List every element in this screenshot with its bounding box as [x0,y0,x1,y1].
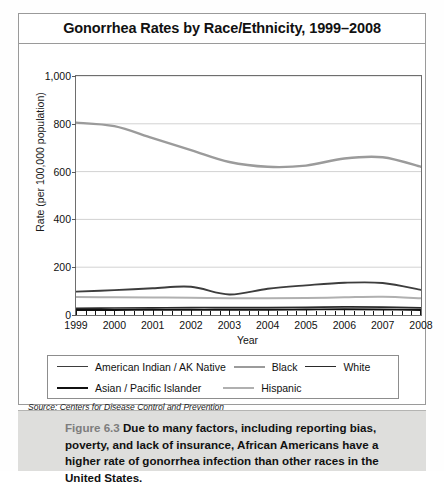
x-minor-tick [143,311,144,315]
x-tick-label: 2008 [409,319,432,331]
legend-item: Asian / Pacific Islander [57,382,201,394]
x-minor-tick [287,311,288,315]
y-tick-label: 800 [53,118,71,130]
x-minor-tick [316,311,317,315]
x-minor-tick [402,311,403,315]
legend-label: Asian / Pacific Islander [95,382,201,394]
figure-number: Figure 6.3 [65,421,120,434]
legend-swatch [223,387,254,389]
x-minor-tick [124,311,125,315]
x-minor-tick [239,311,240,315]
x-minor-tick [76,309,77,315]
x-tick-label: 2003 [218,319,241,331]
x-minor-tick [86,311,87,315]
x-tick-label: 2004 [256,319,279,331]
x-minor-tick [181,311,182,315]
legend-swatch [57,366,88,367]
x-tick-label: 1999 [64,319,87,331]
figure-caption: Figure 6.3 Due to many factors, includin… [65,420,410,486]
x-minor-tick [258,311,259,315]
x-minor-tick [114,309,115,315]
series-line [76,282,421,294]
plot-area: 02004006008001,000 199920002001200220032… [75,75,422,316]
x-tick-label: 2000 [103,319,126,331]
chart-legend: American Indian / AK NativeBlackWhite As… [47,355,399,399]
x-minor-tick [296,311,297,315]
chart-series-svg [76,76,421,315]
x-minor-tick [392,311,393,315]
y-tick-label: 1,000 [45,70,71,82]
x-tick-label: 2006 [333,319,356,331]
x-minor-tick [411,311,412,315]
caption-band: Figure 6.3 Due to many factors, includin… [18,410,426,471]
legend-label: Black [272,361,298,373]
x-minor-tick [172,311,173,315]
x-axis-label: Year [75,334,420,346]
legend-item: White [305,361,370,373]
legend-item: American Indian / AK Native [57,361,226,373]
legend-row: Asian / Pacific IslanderHispanic [48,377,398,398]
x-minor-tick [229,309,230,315]
x-minor-tick [383,309,384,315]
y-tick-label: 600 [53,166,71,178]
legend-swatch [57,387,88,389]
x-minor-tick [268,309,269,315]
legend-label: Hispanic [261,382,301,394]
x-minor-tick [153,309,154,315]
x-minor-tick [364,311,365,315]
x-axis-minor-ticks [76,309,421,315]
x-minor-tick [191,309,192,315]
legend-swatch [234,366,265,368]
x-minor-tick [335,311,336,315]
legend-label: American Indian / AK Native [95,361,226,373]
x-tick-label: 2002 [179,319,202,331]
x-minor-tick [277,311,278,315]
legend-item: Hispanic [223,382,301,394]
x-minor-tick [344,309,345,315]
x-minor-tick [95,311,96,315]
y-axis-label: Rate (per 100,000 population) [34,62,46,262]
x-tick-label: 2007 [371,319,394,331]
plot-block: Rate (per 100,000 population) 0200400600… [19,44,425,360]
x-tick-label: 2005 [294,319,317,331]
x-minor-tick [420,309,421,315]
y-tick-label: 200 [53,261,71,273]
chart-title: Gonorrhea Rates by Race/Ethnicity, 1999–… [19,14,425,44]
x-minor-tick [105,311,106,315]
x-minor-tick [201,311,202,315]
x-minor-tick [306,309,307,315]
legend-swatch [305,366,336,367]
x-tick-label: 2001 [141,319,164,331]
legend-item: Black [234,361,298,373]
x-minor-tick [373,311,374,315]
x-minor-tick [354,311,355,315]
x-minor-tick [134,311,135,315]
figure-panel: Gonorrhea Rates by Race/Ethnicity, 1999–… [18,13,426,405]
x-minor-tick [325,311,326,315]
x-minor-tick [249,311,250,315]
legend-row: American Indian / AK NativeBlackWhite [48,356,398,377]
series-line [76,297,421,299]
legend-label: White [343,361,370,373]
x-minor-tick [162,311,163,315]
series-line [76,123,421,167]
x-minor-tick [220,311,221,315]
x-minor-tick [210,311,211,315]
y-tick-label: 400 [53,213,71,225]
